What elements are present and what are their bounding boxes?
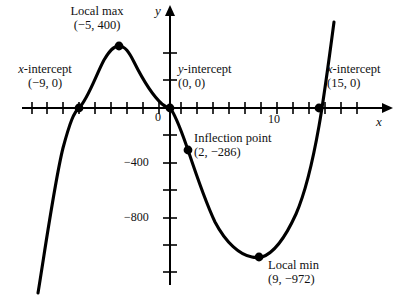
y-tick-label-neg800: −800	[124, 210, 149, 225]
x-intercept-right-coords: (15, 0)	[327, 76, 380, 90]
y-axis-label: y	[155, 3, 161, 19]
y-tick-label-neg400: −400	[124, 155, 149, 170]
y-intercept-title-rest: -intercept	[184, 62, 232, 76]
local-min-coords: (9, −972)	[268, 272, 319, 286]
x-axis-label: x	[376, 114, 382, 130]
local-max-title: Local max	[42, 4, 152, 18]
point-inflection	[184, 146, 193, 155]
point-y-intercept	[166, 104, 175, 113]
x-axis-arrowhead	[382, 103, 393, 113]
annotation-x-intercept-left: x-intercept (−9, 0)	[0, 62, 90, 90]
x-intercept-left-coords: (−9, 0)	[0, 76, 90, 90]
x-intercept-right-title-rest: -intercept	[333, 62, 381, 76]
annotation-inflection-point: Inflection point (2, −286)	[194, 131, 271, 159]
local-min-title: Local min	[268, 258, 319, 272]
point-local-min	[255, 253, 264, 262]
point-local-max	[115, 42, 124, 51]
x-intercept-left-title: x-intercept	[0, 62, 90, 76]
origin-tick-label: 0	[155, 110, 161, 125]
y-axis-arrowhead	[165, 5, 175, 16]
inflection-coords: (2, −286)	[194, 145, 271, 159]
x-tick-label-10: 10	[268, 112, 280, 127]
annotation-local-max: Local max (−5, 400)	[42, 4, 152, 32]
graph-figure: Local max (−5, 400) x-intercept (−9, 0) …	[0, 0, 402, 295]
local-max-coords: (−5, 400)	[42, 18, 152, 32]
x-intercept-left-title-rest: -intercept	[24, 62, 72, 76]
point-x-intercept-right	[315, 104, 324, 113]
annotation-x-intercept-right: x-intercept (15, 0)	[327, 62, 380, 90]
annotation-y-intercept: y-intercept (0, 0)	[178, 62, 231, 90]
point-x-intercept-left	[75, 104, 84, 113]
inflection-title: Inflection point	[194, 131, 271, 145]
y-intercept-title: y-intercept	[178, 62, 231, 76]
x-intercept-right-title: x-intercept	[327, 62, 380, 76]
y-intercept-coords: (0, 0)	[178, 76, 231, 90]
annotation-local-min: Local min (9, −972)	[268, 258, 319, 286]
